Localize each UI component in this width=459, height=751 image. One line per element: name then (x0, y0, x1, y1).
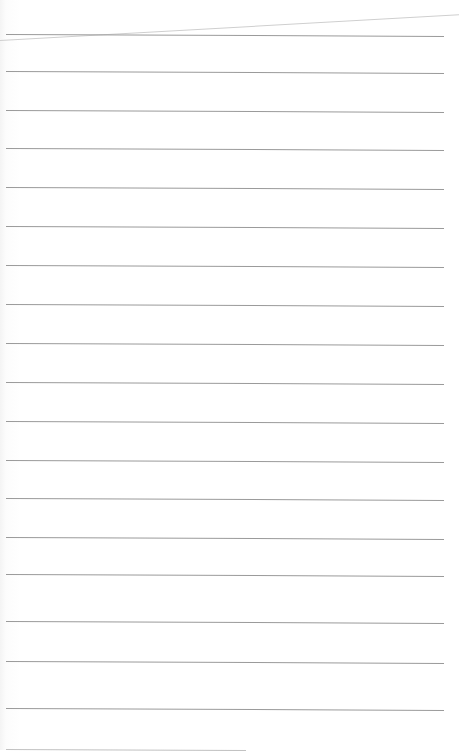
ruled-line (6, 110, 444, 113)
ruled-line (6, 382, 444, 385)
ruled-line (6, 304, 444, 307)
ruled-line (6, 621, 444, 624)
ruled-line (6, 71, 444, 74)
ruled-line (6, 148, 444, 151)
ruled-line (6, 343, 444, 346)
ruled-line (6, 187, 444, 190)
ruled-line (6, 574, 444, 577)
page-edge-line (0, 14, 459, 41)
ruled-line (6, 661, 444, 664)
ruled-line (6, 226, 444, 229)
ruled-line (6, 498, 444, 501)
ruled-line (6, 265, 444, 268)
ruled-line (6, 421, 444, 424)
ruled-line (6, 460, 444, 463)
ruled-line (6, 537, 444, 540)
ruled-line (6, 708, 444, 711)
